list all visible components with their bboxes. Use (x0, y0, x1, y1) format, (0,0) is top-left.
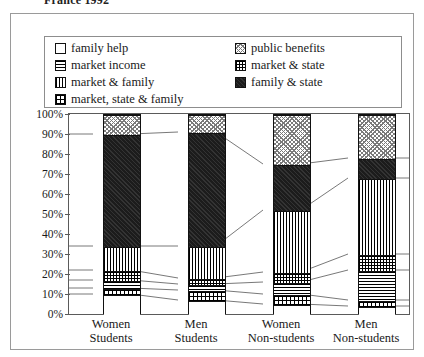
legend-item-label: public benefits (251, 41, 325, 56)
legend-item-label: market & family (71, 75, 154, 90)
cross-hatch-light-square-icon (235, 43, 246, 54)
y-axis-tick-label: 80% (19, 149, 63, 160)
bar-segment[interactable] (359, 179, 395, 255)
y-axis-tick-mark (65, 214, 70, 215)
y-axis-tick-label: 40% (19, 229, 63, 240)
bar-segment[interactable] (104, 289, 140, 295)
stacked-bar[interactable] (358, 114, 396, 314)
bar-segment[interactable] (274, 295, 310, 305)
empty-white-square-icon (55, 43, 66, 54)
legend-item[interactable]: family help (55, 40, 235, 56)
y-axis-tick-mark (65, 154, 70, 155)
bar-segment[interactable] (104, 135, 140, 247)
bar-segment[interactable] (359, 307, 395, 315)
stacked-bar[interactable] (103, 114, 141, 314)
y-axis-tick-label: 70% (19, 169, 63, 180)
legend-item-label: family & state (251, 75, 323, 90)
y-axis-tick-mark (65, 114, 70, 115)
plot-wrapper: 100%90%80%70%60%50%40%30%20%10%0% WomenS… (10, 105, 414, 350)
bar-segment[interactable] (274, 115, 310, 165)
legend-item-label: market & state (251, 58, 325, 73)
bar-segment[interactable] (104, 281, 140, 289)
y-axis-tick-label: 90% (19, 129, 63, 140)
bar-segment[interactable] (359, 301, 395, 307)
bar-segment[interactable] (104, 271, 140, 281)
x-axis-label-line1: Men (311, 317, 421, 331)
plot-area: 100%90%80%70%60%50%40%30%20%10%0% (68, 113, 410, 315)
y-axis-tick-mark (65, 134, 70, 135)
bar-segment[interactable] (189, 285, 225, 291)
legend-item-label: family help (71, 41, 128, 56)
legend-column-left: family helpmarket incomemarket & familym… (55, 40, 235, 108)
y-axis-tick-label: 60% (19, 189, 63, 200)
legend-item[interactable]: market & state (235, 57, 400, 73)
bar-segment[interactable] (189, 115, 225, 133)
chart-legend: family helpmarket incomemarket & familym… (44, 36, 402, 108)
bar-segment[interactable] (274, 211, 310, 273)
y-axis-tick-label: 10% (19, 289, 63, 300)
y-axis-tick-label: 50% (19, 209, 63, 220)
bar-segment[interactable] (189, 301, 225, 315)
y-axis-tick-label: 20% (19, 269, 63, 280)
bar-segment[interactable] (189, 291, 225, 301)
bar-segment[interactable] (104, 295, 140, 315)
page-title: France 1992 (44, 0, 204, 7)
bar-segment[interactable] (274, 305, 310, 315)
legend-column-right: public benefitsmarket & statefamily & st… (235, 40, 400, 91)
legend-item[interactable]: market income (55, 57, 235, 73)
legend-item[interactable]: market & family (55, 74, 235, 90)
vertical-lines-square-icon (55, 77, 66, 88)
fine-dotted-square-icon (55, 94, 66, 105)
y-axis-tick-mark (65, 234, 70, 235)
y-axis-tick-mark (65, 314, 70, 315)
legend-item-label: market income (71, 58, 146, 73)
bar-segment[interactable] (359, 271, 395, 301)
bar-segment[interactable] (274, 283, 310, 295)
dense-grid-square-icon (235, 60, 246, 71)
legend-item[interactable]: family & state (235, 74, 400, 90)
y-axis-tick-mark (65, 254, 70, 255)
x-axis-category-label: MenNon-students (311, 317, 421, 345)
bar-segment[interactable] (359, 255, 395, 271)
y-axis-tick-mark (65, 194, 70, 195)
bar-segment[interactable] (359, 159, 395, 179)
y-axis-tick-mark (65, 274, 70, 275)
bar-segment[interactable] (104, 247, 140, 271)
y-axis-tick-label: 100% (19, 109, 63, 120)
stacked-bar[interactable] (273, 114, 311, 314)
bar-segment[interactable] (189, 133, 225, 247)
solid-black-square-icon (235, 77, 246, 88)
bar-segment[interactable] (104, 115, 140, 135)
x-axis-label-line2: Non-students (311, 331, 421, 345)
bar-segment[interactable] (189, 279, 225, 285)
bar-segment[interactable] (359, 115, 395, 159)
stacked-bar[interactable] (188, 114, 226, 314)
legend-item[interactable]: public benefits (235, 40, 400, 56)
bar-segment[interactable] (274, 165, 310, 211)
y-axis-tick-label: 30% (19, 249, 63, 260)
y-axis-tick-mark (65, 174, 70, 175)
bar-segment[interactable] (274, 273, 310, 283)
horizontal-lines-square-icon (55, 60, 66, 71)
bar-segment[interactable] (189, 247, 225, 279)
y-axis-tick-mark (65, 294, 70, 295)
